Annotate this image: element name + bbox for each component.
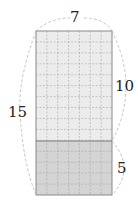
- total-height-label: 15: [8, 105, 27, 120]
- top-height-label: 10: [115, 79, 134, 94]
- width-brace-right: [84, 18, 112, 31]
- width-brace-left: [36, 18, 70, 31]
- bottom-section: [36, 141, 112, 195]
- top-section: [36, 31, 112, 141]
- width-label: 7: [70, 10, 80, 25]
- bottom-height-label: 5: [117, 161, 127, 176]
